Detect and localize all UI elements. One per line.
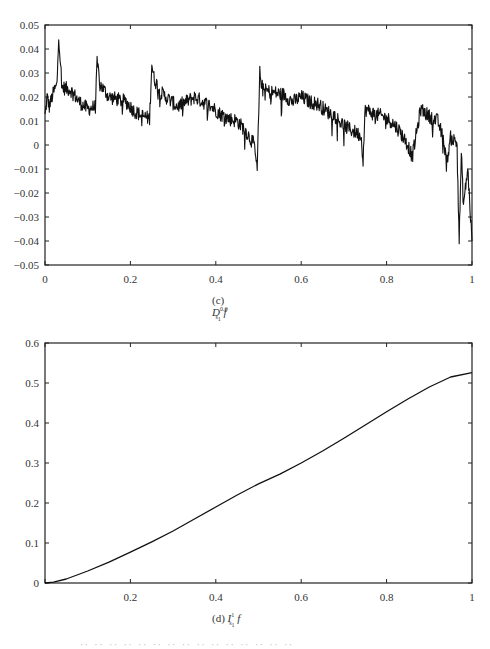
caption-d-function: f — [237, 612, 240, 624]
chart-d-caption: (d) I1s1 f — [212, 612, 240, 628]
y-tick-label: 0.01 — [20, 115, 39, 127]
caption-c-label: (c) — [212, 294, 224, 306]
chart-c-caption: (c) D0.6s1 f — [212, 294, 242, 322]
y-tick-label: 0.02 — [20, 91, 39, 103]
chart-d-fractional-integral: 0.60.50.40.30.20.100.20.40.60.81 (d) I1s… — [0, 320, 490, 649]
y-tick-label: 0.03 — [20, 67, 40, 79]
y-tick-label: 0.1 — [25, 537, 39, 549]
y-tick-label: 0 — [34, 577, 40, 589]
chart-c-plot: 0.050.040.030.020.010−0.01−0.02−0.03−0.0… — [0, 0, 490, 320]
y-tick-label: −0.05 — [14, 259, 40, 271]
y-tick-label: 0 — [34, 139, 40, 151]
x-tick-label: 0.8 — [380, 591, 394, 603]
x-tick-label: 0.6 — [294, 273, 308, 285]
x-tick-label: 0 — [42, 273, 48, 285]
plot-frame — [45, 343, 472, 583]
data-series-line — [45, 373, 472, 583]
x-tick-label: 1 — [469, 591, 475, 603]
y-tick-label: −0.04 — [14, 235, 40, 247]
caption-d-sub: s1 — [229, 620, 234, 626]
y-tick-label: −0.01 — [14, 163, 39, 175]
x-tick-label: 0.4 — [209, 273, 223, 285]
plot-frame — [45, 25, 472, 265]
x-tick-label: 0.4 — [209, 591, 223, 603]
x-tick-label: 0.2 — [124, 273, 138, 285]
chart-c-fractional-derivative: 0.050.040.030.020.010−0.01−0.02−0.03−0.0… — [0, 0, 490, 320]
caption-d-label: (d) — [212, 612, 225, 624]
x-tick-label: 1 — [469, 273, 475, 285]
caption-d-order: 1 — [231, 612, 234, 618]
y-tick-label: −0.02 — [14, 187, 39, 199]
data-series-line — [45, 40, 472, 244]
y-tick-label: 0.6 — [25, 337, 39, 349]
y-tick-label: 0.3 — [25, 457, 39, 469]
caption-c-function: f — [224, 306, 227, 318]
y-tick-label: 0.4 — [25, 417, 39, 429]
x-tick-label: 0.8 — [380, 273, 394, 285]
y-tick-label: 0.5 — [25, 377, 39, 389]
y-tick-label: −0.03 — [14, 211, 40, 223]
y-tick-label: 0.05 — [20, 19, 40, 31]
figure-caption: ·· ·· ·· ·· ·· ·· ·· ·· ·· ·· ·· ·· ·· ·… — [80, 640, 294, 649]
y-tick-label: 0.04 — [20, 43, 40, 55]
y-tick-label: 0.2 — [25, 497, 39, 509]
chart-d-plot: 0.60.50.40.30.20.100.20.40.60.81 — [0, 320, 490, 649]
x-tick-label: 0.6 — [294, 591, 308, 603]
x-tick-label: 0.2 — [124, 591, 138, 603]
